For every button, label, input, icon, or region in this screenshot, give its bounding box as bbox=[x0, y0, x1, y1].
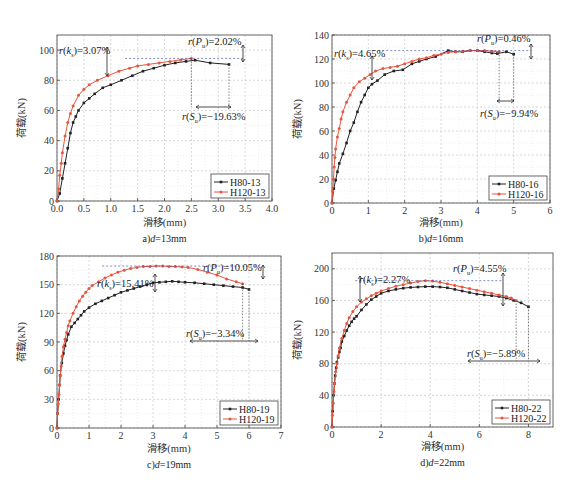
svg-text:r(Pu)=0.46%: r(Pu)=0.46% bbox=[477, 33, 531, 46]
x-axis-label: 滑移(mm) bbox=[147, 442, 191, 455]
x-tick-label: 5 bbox=[511, 205, 516, 216]
y-tick-label: 40 bbox=[319, 150, 329, 161]
x-tick-label: 1 bbox=[366, 205, 371, 216]
svg-text:r(Su)=−19.63%: r(Su)=−19.63% bbox=[182, 111, 246, 124]
y-tick-label: 40 bbox=[319, 390, 329, 401]
chart-panel-b: 0123456020406080100120140滑移(mm)荷载(kN)b)d… bbox=[292, 30, 553, 246]
y-tick-label: 150 bbox=[39, 279, 54, 290]
x-tick-label: 5 bbox=[215, 430, 220, 441]
x-axis-label: 滑移(mm) bbox=[143, 216, 187, 229]
series-H120-19 bbox=[56, 265, 245, 430]
legend-entry: H120-13 bbox=[230, 187, 266, 198]
y-tick-label: 120 bbox=[39, 308, 54, 319]
series-H120-16 bbox=[331, 49, 501, 204]
legend: H80-16H120-16 bbox=[489, 176, 547, 200]
x-tick-label: 7 bbox=[279, 430, 284, 441]
y-tick-label: 60 bbox=[44, 365, 54, 376]
y-tick-label: 0 bbox=[49, 196, 54, 207]
svg-text:r(Pu)=4.55%: r(Pu)=4.55% bbox=[453, 263, 507, 276]
x-tick-label: 4 bbox=[183, 430, 188, 441]
chart-panel-a: 0.00.51.01.52.02.53.03.54.0020406080100滑… bbox=[16, 35, 278, 245]
x-axis-label: 滑移(mm) bbox=[419, 216, 463, 229]
x-tick-label: 3.0 bbox=[212, 203, 225, 214]
y-tick-label: 120 bbox=[314, 54, 329, 65]
y-tick-label: 40 bbox=[44, 135, 54, 146]
x-tick-label: 3.5 bbox=[239, 203, 252, 214]
annotation-pu: r(Pu)=2.02% bbox=[188, 36, 245, 62]
legend-entry: H120-16 bbox=[508, 189, 544, 200]
x-tick-label: 0.5 bbox=[78, 203, 91, 214]
chart-panel-d: 0246804080120160200滑移(mm)荷载(kN)d)d=22mmr… bbox=[292, 253, 553, 469]
x-tick-label: 2.0 bbox=[158, 203, 171, 214]
x-tick-label: 3 bbox=[151, 430, 156, 441]
svg-text:r(ks)=3.07%: r(ks)=3.07% bbox=[59, 45, 110, 58]
svg-text:r(Pu)=2.02%: r(Pu)=2.02% bbox=[188, 36, 242, 49]
series-H80-16 bbox=[331, 49, 515, 204]
y-tick-label: 60 bbox=[319, 126, 329, 137]
y-tick-label: 20 bbox=[319, 174, 329, 185]
y-tick-label: 0 bbox=[324, 198, 329, 209]
x-tick-label: 6 bbox=[477, 429, 482, 440]
annotation-ks: r(ks)=3.07% bbox=[59, 45, 110, 76]
y-axis-label: 荷载(kN) bbox=[292, 320, 304, 360]
x-tick-label: 4.0 bbox=[266, 203, 279, 214]
panel-caption: c)d=19mm bbox=[147, 459, 191, 471]
x-tick-label: 6 bbox=[548, 205, 553, 216]
annotation-ks: r(ks)=4.65% bbox=[334, 48, 385, 80]
x-tick-label: 2 bbox=[119, 430, 124, 441]
svg-text:r(ks)=15.41%: r(ks)=15.41% bbox=[97, 278, 154, 291]
x-tick-label: 4 bbox=[475, 205, 480, 216]
x-tick-label: 6 bbox=[247, 430, 252, 441]
x-tick-label: 0 bbox=[55, 430, 60, 441]
y-axis-label: 荷载(kN) bbox=[16, 98, 28, 138]
y-tick-label: 100 bbox=[314, 78, 329, 89]
annotation-su: r(Su)=−9.94% bbox=[480, 52, 539, 121]
x-tick-label: 1.0 bbox=[105, 203, 118, 214]
legend: H80-22H120-22 bbox=[492, 400, 550, 424]
annotation-su: r(Su)=−5.89% bbox=[467, 300, 540, 363]
y-tick-label: 0 bbox=[49, 423, 54, 434]
panel-caption: a)d=13mm bbox=[143, 233, 187, 245]
x-axis-label: 滑移(mm) bbox=[421, 440, 465, 453]
svg-text:r(Su)=−5.89%: r(Su)=−5.89% bbox=[467, 348, 526, 361]
y-tick-label: 160 bbox=[314, 295, 329, 306]
y-tick-label: 20 bbox=[44, 165, 54, 176]
y-tick-label: 80 bbox=[319, 102, 329, 113]
x-tick-label: 4 bbox=[428, 429, 433, 440]
y-axis-label: 荷载(kN) bbox=[292, 99, 304, 139]
y-tick-label: 30 bbox=[44, 394, 54, 405]
y-tick-label: 60 bbox=[44, 105, 54, 116]
y-tick-label: 0 bbox=[324, 422, 329, 433]
y-tick-label: 200 bbox=[314, 263, 329, 274]
y-tick-label: 90 bbox=[44, 337, 54, 348]
x-tick-label: 0 bbox=[330, 205, 335, 216]
x-tick-label: 0 bbox=[330, 429, 335, 440]
chart-panel-c: 012345670306090120150180滑移(mm)荷载(kN)c)d=… bbox=[16, 251, 284, 472]
y-tick-label: 80 bbox=[319, 358, 329, 369]
x-tick-label: 2 bbox=[402, 205, 407, 216]
y-tick-label: 140 bbox=[314, 30, 329, 41]
x-tick-label: 2 bbox=[379, 429, 384, 440]
annotation-pu: r(Pu)=0.46% bbox=[477, 33, 533, 59]
x-tick-label: 1 bbox=[87, 430, 92, 441]
panel-caption: b)d=16mm bbox=[419, 233, 464, 245]
y-tick-label: 80 bbox=[44, 75, 54, 86]
legend: H80-19H120-19 bbox=[220, 401, 278, 425]
annotation-pu: r(Pu)=10.05% bbox=[203, 262, 265, 279]
x-tick-label: 8 bbox=[526, 429, 531, 440]
x-tick-label: 2.5 bbox=[185, 203, 198, 214]
legend: H80-13H120-13 bbox=[211, 174, 269, 198]
y-axis-label: 荷载(kN) bbox=[16, 322, 28, 362]
x-tick-label: 3 bbox=[439, 205, 444, 216]
y-tick-label: 120 bbox=[314, 327, 329, 338]
svg-text:r(Su)=−3.34%: r(Su)=−3.34% bbox=[186, 328, 245, 341]
y-tick-label: 100 bbox=[39, 45, 54, 56]
legend-entry: H120-22 bbox=[511, 413, 547, 424]
legend-entry: H120-19 bbox=[239, 414, 275, 425]
x-tick-label: 1.5 bbox=[131, 203, 144, 214]
figure-canvas: 0.00.51.01.52.02.53.03.54.0020406080100滑… bbox=[0, 0, 579, 496]
panel-caption: d)d=22mm bbox=[420, 457, 465, 469]
y-tick-label: 180 bbox=[39, 251, 54, 262]
